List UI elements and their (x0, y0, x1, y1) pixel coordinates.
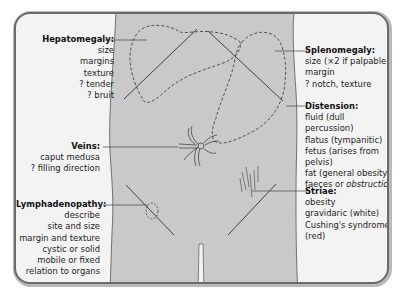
distension-item: fat (general obesity) (305, 168, 389, 179)
lymphadenopathy-item: mobile or fixed (16, 255, 100, 266)
splenomegaly-label: Splenomegaly: size (×2 if palpable) marg… (305, 45, 389, 90)
distension-item: pelvis) (305, 157, 389, 168)
hepatomegaly-item: ? bruit (30, 90, 114, 101)
striae-item: (red) (305, 231, 389, 242)
lymphadenopathy-item: relation to organs (16, 266, 100, 277)
lymphadenopathy-item: cystic or solid (16, 244, 100, 255)
veins-title: Veins: (16, 141, 100, 152)
striae-item: Cushing's syndrome (305, 220, 389, 231)
distension-title: Distension: (305, 101, 389, 112)
distension-item: fetus (arises from (305, 146, 389, 157)
striae-label: Striae: obesity gravidaric (white) Cushi… (305, 186, 389, 242)
lymphadenopathy-item: site and size (16, 221, 100, 232)
striae-item: gravidaric (white) (305, 208, 389, 219)
hepatomegaly-item: margins (30, 56, 114, 67)
striae-title: Striae: (305, 186, 389, 197)
hepatomegaly-title: Hepatomegaly: (30, 34, 114, 45)
veins-label: Veins: caput medusa ? filling direction (16, 141, 100, 175)
veins-item: ? filling direction (16, 163, 100, 174)
splenomegaly-item: margin (305, 67, 389, 78)
diagram-frame: Hepatomegaly: size margins texture ? ten… (14, 12, 389, 284)
splenomegaly-item: size (×2 if palpable) (305, 56, 389, 67)
veins-item: caput medusa (16, 152, 100, 163)
splenomegaly-item: ? notch, texture (305, 79, 389, 90)
hepatomegaly-item: ? tender (30, 79, 114, 90)
lymphadenopathy-item: describe (16, 210, 100, 221)
lymphadenopathy-label: Lymphadenopathy: describe site and size … (16, 199, 100, 277)
hepatomegaly-item: size (30, 45, 114, 56)
leg-gap (198, 244, 204, 282)
striae-item: obesity (305, 197, 389, 208)
splenomegaly-title: Splenomegaly: (305, 45, 389, 56)
distension-item: fluid (dull percussion) (305, 112, 389, 134)
hepatomegaly-label: Hepatomegaly: size margins texture ? ten… (30, 34, 114, 101)
lymphadenopathy-item: margin and texture (16, 233, 100, 244)
hepatomegaly-item: texture (30, 68, 114, 79)
lymphadenopathy-title: Lymphadenopathy: (16, 199, 100, 210)
torso-outline (110, 14, 298, 282)
distension-label: Distension: fluid (dull percussion) flat… (305, 101, 389, 191)
distension-item: flatus (tympanitic) (305, 135, 389, 146)
